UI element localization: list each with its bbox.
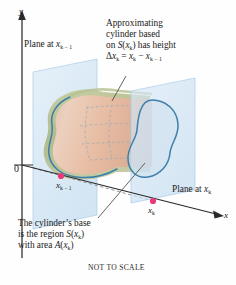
point-xk xyxy=(150,198,156,204)
plane-right-subscript: k xyxy=(208,189,211,195)
x-axis-label: x xyxy=(224,210,228,220)
plane-left-label: Plane at xk − 1 xyxy=(24,39,72,50)
delta-x-sub: k xyxy=(116,56,119,62)
base-line3-prefix: with area xyxy=(18,240,55,250)
xk-label-sub: k xyxy=(152,210,155,216)
plane-right-label: Plane at xk xyxy=(172,184,211,195)
cylinder-base-annotation: The cylinder’s base is the region S(xk) … xyxy=(18,218,138,251)
point-xk-label: xk xyxy=(148,205,155,215)
area-x: x xyxy=(63,240,67,250)
base-line-2: is the region S(xk) xyxy=(18,229,138,240)
base-x-sub: k xyxy=(78,234,81,240)
approx-line-3: on S(xk) has height xyxy=(106,40,232,51)
approx-line-1: Approximating xyxy=(106,18,232,29)
approx-x: x xyxy=(125,40,129,50)
base-line-1: The cylinder’s base xyxy=(18,218,138,229)
xk1-label-sub: k − 1 xyxy=(60,185,72,191)
approx-x-sub: k xyxy=(130,45,133,51)
plane-left-text: Plane at xyxy=(24,39,56,49)
approx-line-4-formula: Δxk = xk − xk − 1 xyxy=(106,51,232,62)
not-to-scale-caption: NOT TO SCALE xyxy=(88,264,145,273)
point-xk-minus-1-label: xk − 1 xyxy=(56,180,72,190)
equals-sign: = xyxy=(119,51,129,61)
xk-term-sub: k xyxy=(133,56,136,62)
base-line2-prefix: is the region xyxy=(18,229,66,239)
approximating-cylinder-annotation: Approximating cylinder based on S(xk) ha… xyxy=(106,18,232,62)
point-xk-minus-1 xyxy=(58,173,64,179)
xk1-term-sub: k − 1 xyxy=(150,56,162,62)
base-paren-close: ) xyxy=(81,229,84,239)
approx-line3-prefix: on xyxy=(106,40,118,50)
plane-left-subscript: k − 1 xyxy=(60,44,72,50)
approx-line-2: cylinder based xyxy=(106,29,232,40)
approx-line3-suffix: ) has height xyxy=(132,40,175,50)
origin-label: 0 xyxy=(14,163,19,175)
figure-container: y x 0 Plane at xk − 1 Plane at xk Approx… xyxy=(0,0,236,285)
area-paren-close: ) xyxy=(70,240,73,250)
base-line-3: with area A(xk) xyxy=(18,240,138,251)
y-axis-label: y xyxy=(19,6,23,16)
minus-sign: − xyxy=(136,51,146,61)
plane-right-text: Plane at xyxy=(172,184,204,194)
